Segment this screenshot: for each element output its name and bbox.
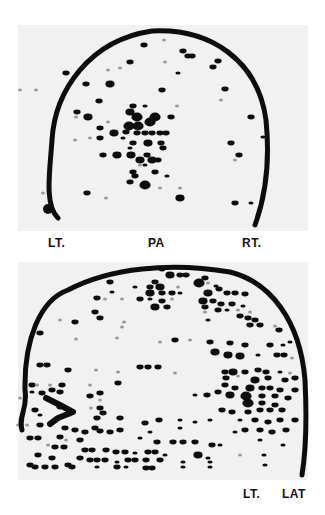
- count-dot: [225, 392, 234, 399]
- label-view-pa: PA: [148, 236, 165, 250]
- count-dot: [93, 458, 100, 463]
- count-dot: [228, 302, 235, 307]
- count-dot: [242, 399, 253, 408]
- count-dot: [222, 376, 229, 381]
- label-right-top: RT.: [242, 236, 262, 250]
- count-dot: [36, 331, 43, 336]
- count-dot: [235, 353, 244, 360]
- count-dots: [16, 267, 299, 471]
- count-dot: [89, 407, 93, 410]
- count-dot: [240, 392, 251, 401]
- count-dot: [16, 424, 20, 427]
- count-dot: [162, 131, 169, 136]
- count-dot: [241, 343, 248, 348]
- count-dot: [136, 365, 143, 370]
- count-dot: [205, 457, 210, 460]
- count-dot: [83, 114, 92, 121]
- count-dot: [56, 435, 63, 440]
- count-dot: [266, 408, 273, 413]
- count-dot: [258, 394, 265, 399]
- count-dot: [135, 157, 144, 164]
- label-view-lat: LAT: [282, 487, 306, 501]
- count-dot: [247, 115, 254, 120]
- count-dot: [71, 428, 78, 433]
- count-dot: [56, 390, 63, 395]
- count-dot: [118, 67, 122, 70]
- count-dot: [291, 388, 298, 393]
- count-dot: [104, 197, 108, 200]
- count-dot: [116, 371, 120, 374]
- count-dot: [205, 319, 210, 322]
- count-dot: [208, 443, 215, 448]
- count-dot: [156, 458, 163, 463]
- count-dot: [140, 43, 147, 48]
- count-dot: [93, 296, 100, 301]
- count-dot: [217, 302, 224, 307]
- count-dot: [219, 99, 223, 102]
- count-dot: [159, 146, 166, 151]
- count-dot: [123, 122, 134, 131]
- count-dot: [224, 309, 229, 312]
- count-dot: [155, 418, 162, 423]
- count-dot: [227, 141, 234, 146]
- count-dot: [155, 284, 164, 291]
- count-dot: [175, 195, 184, 202]
- count-dot: [176, 273, 183, 278]
- count-dot: [141, 421, 148, 426]
- count-dot: [122, 321, 126, 324]
- count-dot: [144, 118, 155, 127]
- outline-marker: [43, 204, 53, 214]
- count-dot: [173, 372, 177, 375]
- count-dot: [231, 201, 238, 206]
- count-dot: [137, 437, 142, 440]
- count-dot: [106, 280, 113, 285]
- count-dot: [193, 279, 204, 288]
- count-dot: [142, 164, 147, 167]
- count-dot: [132, 286, 137, 289]
- count-dot: [139, 181, 150, 190]
- count-dot: [256, 323, 263, 328]
- count-dot: [138, 164, 142, 167]
- count-dot: [126, 152, 135, 159]
- count-dot: [147, 431, 152, 434]
- count-dot: [41, 465, 48, 470]
- count-dot: [68, 414, 72, 417]
- count-dot: [206, 282, 210, 285]
- count-dot: [41, 192, 45, 195]
- count-dot: [233, 159, 237, 162]
- count-dot: [164, 175, 169, 178]
- count-dot: [180, 466, 185, 469]
- count-dot: [101, 458, 108, 463]
- count-dot: [96, 406, 103, 411]
- count-dot: [28, 383, 35, 388]
- count-dot: [48, 384, 52, 387]
- count-dot: [74, 116, 78, 119]
- count-dot: [223, 352, 232, 359]
- count-dot: [51, 465, 58, 470]
- count-dot: [81, 430, 88, 435]
- count-dot: [157, 141, 164, 146]
- scan-background: [18, 262, 308, 480]
- count-dot: [88, 137, 92, 140]
- count-dot: [221, 383, 228, 388]
- count-dot: [162, 454, 167, 457]
- count-dot: [102, 448, 109, 453]
- label-left-lat: LT.: [243, 487, 260, 501]
- count-dot: [147, 298, 152, 301]
- count-dot: [261, 454, 266, 457]
- count-dot: [123, 466, 128, 469]
- count-dot: [158, 341, 162, 344]
- count-dot: [228, 369, 237, 376]
- count-dot: [171, 338, 178, 343]
- count-dot: [214, 308, 221, 313]
- count-dot: [60, 445, 67, 450]
- count-dot: [120, 298, 124, 301]
- count-dot: [191, 440, 198, 445]
- count-dot: [178, 187, 182, 190]
- count-dot: [266, 386, 273, 391]
- count-dot: [231, 291, 238, 296]
- count-dot: [154, 365, 161, 370]
- count-dot: [31, 408, 38, 413]
- count-dot: [105, 81, 114, 88]
- count-dot: [188, 54, 195, 59]
